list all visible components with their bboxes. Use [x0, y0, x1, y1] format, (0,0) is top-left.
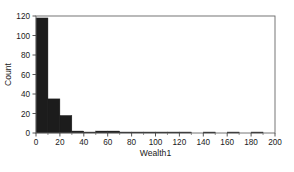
x-tick-label: 40: [79, 138, 89, 147]
y-tick-label: 40: [21, 90, 31, 99]
x-tick-label: 160: [220, 138, 234, 147]
histogram-figure: 020406080100120140160180200 020406080100…: [0, 0, 294, 172]
y-axis-label: Count: [3, 62, 13, 86]
x-tick-label: 60: [103, 138, 113, 147]
x-axis-label: Wealth1: [140, 148, 172, 158]
x-tick-label: 140: [196, 138, 210, 147]
histogram-bar: [60, 115, 72, 133]
histogram-bar: [36, 18, 48, 133]
x-tick-label: 80: [127, 138, 137, 147]
y-tick-label: 120: [16, 12, 30, 21]
x-tick-label: 0: [34, 138, 39, 147]
y-tick-label: 20: [21, 110, 31, 119]
histogram-bar: [48, 99, 60, 133]
y-tick-label: 100: [16, 32, 30, 41]
y-axis-tick-labels: 020406080100120: [16, 12, 30, 138]
x-tick-label: 100: [149, 138, 163, 147]
y-axis-ticks: [33, 16, 37, 133]
y-tick-label: 0: [25, 129, 30, 138]
x-tick-label: 180: [244, 138, 258, 147]
x-axis-tick-labels: 020406080100120140160180200: [34, 138, 283, 147]
y-tick-label: 80: [21, 51, 31, 60]
histogram-plot: 020406080100120140160180200 020406080100…: [0, 0, 294, 172]
x-tick-label: 200: [268, 138, 282, 147]
y-tick-label: 60: [21, 71, 31, 80]
x-tick-label: 120: [173, 138, 187, 147]
x-tick-label: 20: [55, 138, 65, 147]
